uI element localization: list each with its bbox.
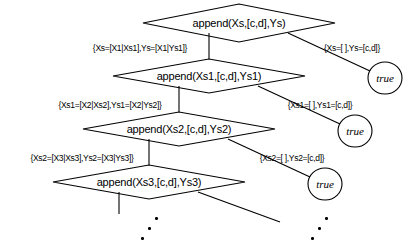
leaf-node-label-0: true xyxy=(376,72,394,84)
branch-right-3 xyxy=(198,192,280,222)
leaf-node-label-1: true xyxy=(346,125,364,137)
substitution-label-right-2: {Xs2=[ ],Ys2=[c,d]} xyxy=(260,153,325,163)
continuation-dots-left xyxy=(141,217,163,243)
substitution-label-left-0: {Xs=[X1|Xs1],Ys=[X1|Ys1]} xyxy=(93,43,187,53)
sld-tree-diagram: append(Xs,[c,d],Ys) append(Xs1,[c,d],Ys1… xyxy=(0,0,420,250)
goal-node-label-3: append(Xs3,[c,d],Ys3) xyxy=(97,176,202,188)
goal-node-label-0: append(Xs,[c,d],Ys) xyxy=(193,17,286,29)
continuation-dots-right xyxy=(311,217,333,243)
substitution-label-left-2: {Xs2=[X3|Xs3],Ys2=[X3|Ys3]} xyxy=(30,153,133,163)
leaf-node-label-2: true xyxy=(316,178,334,190)
substitution-label-left-1: {Xs1=[X2|Xs2],Ys1=[X2|Ys2]} xyxy=(58,100,161,110)
substitution-label-right-1: {Xs1=[ ],Ys1=[c,d]} xyxy=(288,100,353,110)
goal-node-label-2: append(Xs2,[c,d],Ys2) xyxy=(127,123,232,135)
substitution-label-right-0: {Xs=[ ],Ys=[c,d]} xyxy=(324,43,380,53)
goal-node-label-1: append(Xs1,[c,d],Ys1) xyxy=(157,70,262,82)
